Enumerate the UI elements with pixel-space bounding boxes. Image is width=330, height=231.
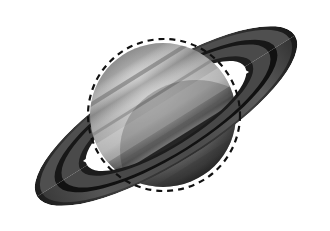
saturn-illustration — [0, 0, 330, 231]
saturn-image-canvas: Grayscale photograph of the planet Satur… — [0, 0, 330, 231]
